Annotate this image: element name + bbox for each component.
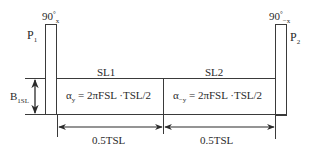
pulse-p2-angle: 90°−x bbox=[269, 11, 290, 25]
pulse-p2-label: P2 bbox=[290, 31, 300, 46]
sl1-equation: αy = 2πFSL ·TSL/2 bbox=[66, 90, 151, 104]
b1sl-label: B1SL bbox=[10, 91, 29, 105]
pulse-p1-label: P1 bbox=[27, 29, 37, 44]
duration-label-2: 0.5TSL bbox=[200, 135, 233, 146]
duration-label-1: 0.5TSL bbox=[92, 135, 125, 146]
spin-lock-block bbox=[25, 78, 287, 134]
pulse-p2 bbox=[276, 25, 287, 116]
pulse-p1-angle: 90°x bbox=[42, 11, 59, 25]
pulse-p1 bbox=[46, 25, 57, 115]
sl1-label: SL1 bbox=[97, 67, 115, 78]
sl2-equation: α−y = 2πFSL ·TSL/2 bbox=[173, 90, 262, 104]
sl2-label: SL2 bbox=[205, 67, 223, 78]
